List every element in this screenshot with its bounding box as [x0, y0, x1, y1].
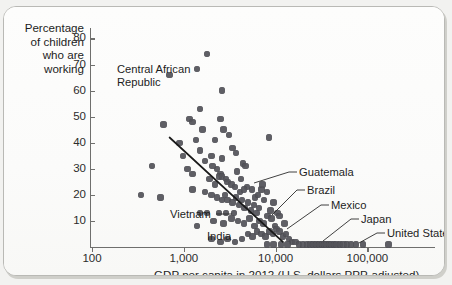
annotation-label-line: Central African	[117, 63, 190, 76]
annotation-labels-layer: Central AfricanRepublicGuatemalaBrazilMe…	[4, 7, 444, 275]
annotation-label: Vietnam	[170, 208, 211, 221]
figure-root: Percentage of children who are working 1…	[0, 0, 452, 285]
annotation-label: Central AfricanRepublic	[117, 63, 190, 88]
chart-card: Percentage of children who are working 1…	[3, 6, 445, 276]
annotation-label: United States	[387, 227, 445, 240]
annotation-label-line: Republic	[117, 76, 190, 89]
annotation-label: Guatemala	[299, 166, 354, 179]
annotation-label: Brazil	[307, 184, 335, 197]
annotation-label: India	[207, 230, 231, 243]
x-axis-title: GDP per capita in 2012 (U.S. dollars PPP…	[154, 268, 419, 276]
annotation-label: Japan	[361, 213, 391, 226]
annotation-label: Mexico	[331, 199, 366, 212]
plot-surface: Percentage of children who are working 1…	[4, 7, 444, 275]
